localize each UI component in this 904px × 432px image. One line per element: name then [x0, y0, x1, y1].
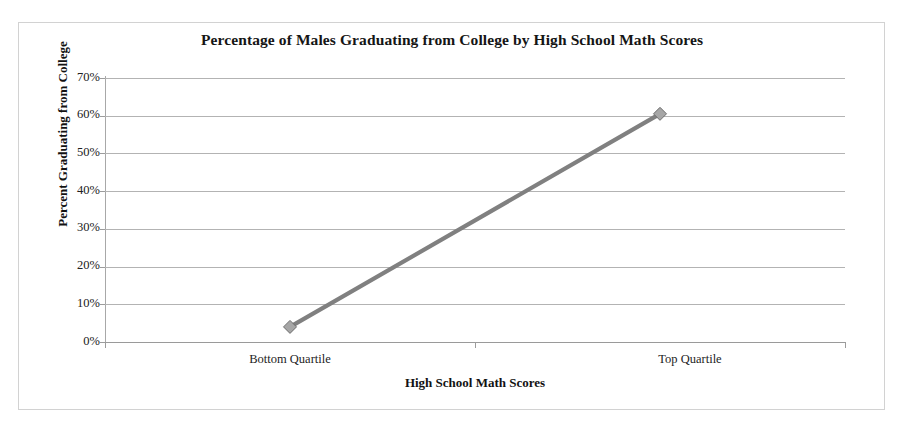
x-tick-mark [845, 342, 846, 348]
plot-area [105, 78, 845, 342]
x-tick-mark [105, 342, 106, 348]
y-tick-label: 70% [54, 71, 100, 84]
y-axis-tick-labels: 70% 60% 50% 40% 30% 20% 10% 0% [50, 0, 100, 432]
x-tick-label-top-quartile: Top Quartile [615, 352, 765, 367]
y-tick-label: 0% [54, 335, 100, 348]
x-axis-title: High School Math Scores [105, 375, 845, 391]
y-tick-label: 10% [54, 297, 100, 310]
y-tick-label: 30% [54, 221, 100, 234]
y-tick-label: 60% [54, 108, 100, 121]
x-tick-mark [475, 342, 476, 348]
x-tick-label-bottom-quartile: Bottom Quartile [215, 352, 365, 367]
chart-title: Percentage of Males Graduating from Coll… [100, 31, 804, 49]
series-line-segment [290, 114, 660, 327]
y-tick-label: 20% [54, 259, 100, 272]
y-tick-label: 40% [54, 184, 100, 197]
y-tick-label: 50% [54, 146, 100, 159]
data-series-line [105, 78, 845, 342]
chart-figure: Percentage of Males Graduating from Coll… [0, 0, 904, 432]
